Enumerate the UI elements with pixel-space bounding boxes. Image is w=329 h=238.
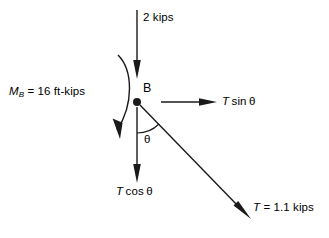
moment-symbol: M — [9, 85, 19, 97]
moment-subscript: B — [19, 90, 24, 99]
point-b-marker — [133, 98, 141, 106]
tension-vertical-label: T cos θ — [116, 186, 153, 198]
tension-vertical-arrow — [133, 107, 141, 183]
moment-arc — [113, 55, 130, 139]
theta-glyph-cos: θ — [146, 185, 153, 197]
free-body-diagram: 2 kips MB = 16 ft-kips B T sin θ θ T cos… — [0, 0, 329, 238]
theta-glyph-sin: θ — [249, 95, 256, 107]
theta-angle-arc — [137, 124, 159, 133]
tension-vertical-function: cos — [126, 185, 144, 197]
moment-label: MB = 16 ft-kips — [9, 86, 85, 99]
moment-value: = 16 ft-kips — [27, 85, 85, 97]
applied-load-arrow — [133, 10, 141, 79]
tension-value: = 1.1 kips — [263, 201, 314, 213]
tension-horizontal-arrow — [161, 98, 217, 105]
tension-resultant-label: T = 1.1 kips — [253, 202, 314, 214]
tension-horizontal-symbol: T — [222, 95, 229, 107]
theta-angle-label: θ — [144, 134, 151, 146]
point-b-label: B — [143, 82, 151, 95]
tension-vertical-symbol: T — [116, 185, 123, 197]
tension-horizontal-label: T sin θ — [222, 96, 255, 108]
tension-symbol: T — [253, 201, 260, 213]
applied-load-label: 2 kips — [143, 12, 174, 24]
tension-horizontal-function: sin — [232, 95, 247, 107]
tension-resultant-arrow — [140, 105, 251, 219]
